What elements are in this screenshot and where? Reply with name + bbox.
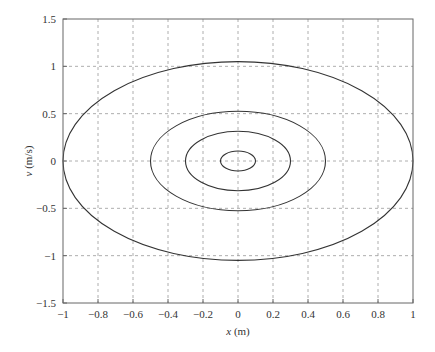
x-tick-label: 0.2 — [266, 308, 280, 320]
y-axis-label: v (m/s) — [22, 145, 35, 176]
x-tick-label: −1 — [57, 308, 69, 320]
x-tick-label: 0.4 — [301, 308, 315, 320]
phase-portrait-chart: −1−0.8−0.6−0.4−0.200.20.40.60.81 −1.5−1−… — [0, 0, 435, 352]
x-tick-label: −0.4 — [158, 308, 178, 320]
y-tick-label: 1.5 — [42, 13, 56, 25]
y-tick-label: 1 — [51, 60, 57, 72]
x-axis-ticks: −1−0.8−0.6−0.4−0.200.20.40.60.81 — [57, 299, 416, 320]
x-axis-label: x (m) — [225, 325, 250, 338]
y-tick-label: −0.5 — [36, 202, 56, 214]
y-tick-label: 0.5 — [42, 108, 56, 120]
y-tick-label: −1 — [44, 250, 56, 262]
y-tick-label: −1.5 — [36, 297, 56, 309]
x-tick-label: 1 — [410, 308, 416, 320]
x-tick-label: −0.6 — [123, 308, 143, 320]
y-tick-label: 0 — [51, 155, 57, 167]
x-tick-label: −0.8 — [88, 308, 108, 320]
x-tick-label: 0 — [235, 308, 241, 320]
x-tick-label: 0.8 — [371, 308, 385, 320]
x-tick-label: 0.6 — [336, 308, 350, 320]
x-tick-label: −0.2 — [193, 308, 213, 320]
y-axis-ticks: −1.5−1−0.500.511.5 — [36, 13, 67, 309]
